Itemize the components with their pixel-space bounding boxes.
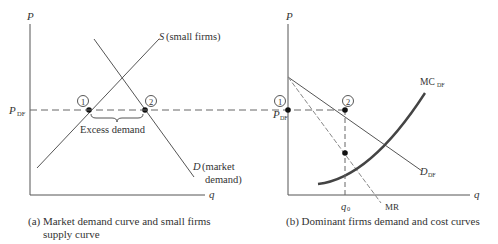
- panel-a-marker-2-text: 2: [149, 97, 153, 107]
- marginal-cost-curve: [318, 93, 425, 184]
- mc-label: MC: [420, 77, 435, 87]
- panel-b-marker-1-text: 1: [278, 97, 282, 107]
- panel-b-point-1: [285, 107, 291, 113]
- q0-label-sub: 0: [347, 205, 350, 212]
- excess-demand-brace: [91, 114, 143, 122]
- panel-a-marker-1-text: 1: [81, 97, 85, 107]
- marginal-revenue-line: [288, 77, 381, 203]
- panel-b-price-label: P: [272, 108, 280, 120]
- excess-demand-label: Excess demand: [80, 124, 146, 135]
- panel-a-price-label: P: [8, 104, 16, 116]
- panel-a-p-axis-label: P: [26, 10, 34, 22]
- dominant-demand-label-sub: DF: [428, 172, 436, 178]
- demand-label-letter: D: [192, 161, 201, 172]
- mc-label-sub: DF: [437, 82, 445, 88]
- panel-a: P q S (small firms) D (market demand) P …: [8, 10, 242, 200]
- panel-a-price-label-sub: DF: [17, 110, 26, 117]
- q0-label: q: [341, 201, 346, 212]
- panel-b-price-label-sub: DF: [280, 115, 288, 121]
- dominant-demand-label: D: [419, 166, 428, 177]
- panel-b-point-2: [342, 107, 348, 113]
- mr-label: MR: [385, 202, 399, 212]
- panel-b-caption: (b) Dominant firms demand and cost curve…: [286, 215, 480, 228]
- dominant-firm-diagram: P q S (small firms) D (market demand) P …: [0, 0, 498, 244]
- panel-b-q-axis-label: q: [474, 188, 480, 200]
- supply-label-letter: S: [159, 31, 165, 42]
- panel-a-caption: (a) Market demand curve and small firms …: [28, 215, 211, 241]
- panel-b-marker-2-text: 2: [346, 97, 350, 107]
- panel-a-caption-line2: supply curve: [28, 228, 211, 241]
- panel-b: P q MC DF D DF MR q 0 P DF 1 2: [272, 10, 480, 212]
- panel-a-caption-line1: (a) Market demand curve and small firms: [28, 215, 211, 228]
- panel-b-p-axis-label: P: [285, 10, 293, 22]
- mr-mc-intersection-point: [342, 150, 348, 156]
- supply-label-text: (small firms): [166, 31, 221, 43]
- demand-label-line2: demand): [205, 174, 242, 186]
- demand-label-line1: (market: [202, 161, 235, 173]
- panel-a-q-axis-label: q: [209, 188, 215, 200]
